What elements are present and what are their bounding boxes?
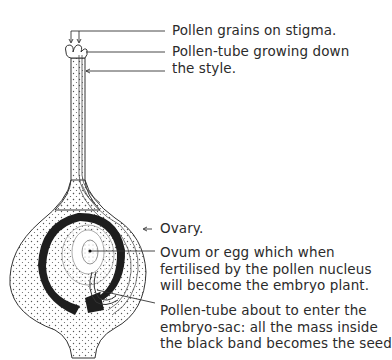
label-ovary: Ovary. [160,220,203,237]
label-line: fertilised by the pollen nucleus [160,261,372,278]
label-pollen-tube-embryo-sac: Pollen-tube about to enter the embryo-sa… [160,302,392,352]
label-pollen-tube-style: Pollen-tube growing down the style. [172,43,349,76]
label-line: the style. [172,60,349,77]
label-pollen-grains: Pollen grains on stigma. [172,22,336,39]
label-line: Ovum or egg which when [160,244,372,261]
label-line: embryo-sac: all the mass inside [160,319,392,336]
label-line: Pollen-tube growing down [172,43,349,60]
label-line: Ovary. [160,220,203,237]
label-line: will become the embryo plant. [160,277,372,294]
label-line: Pollen-tube about to enter the [160,302,392,319]
label-line: Pollen grains on stigma. [172,22,336,39]
label-ovum: Ovum or egg which when fertilised by the… [160,244,372,294]
label-line: the black band becomes the seed [160,335,392,352]
